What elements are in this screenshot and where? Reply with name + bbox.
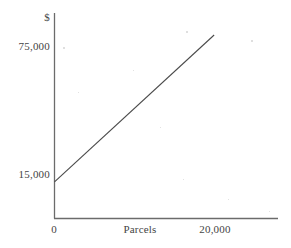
x-axis-tick-label-0: 0 — [44, 224, 64, 235]
y-axis-tick-label-75000: 75,000 — [0, 41, 50, 52]
x-axis-title: Parcels — [110, 224, 170, 235]
x-axis-tick-label-20000: 20,000 — [190, 224, 240, 235]
chart-plot-area — [0, 0, 291, 248]
series-line-cost — [55, 35, 215, 182]
y-axis-unit-label: $ — [30, 12, 50, 23]
line-chart: $ 75,000 15,000 0 Parcels 20,000 — [0, 0, 291, 248]
y-axis-tick-label-15000: 15,000 — [0, 169, 50, 180]
